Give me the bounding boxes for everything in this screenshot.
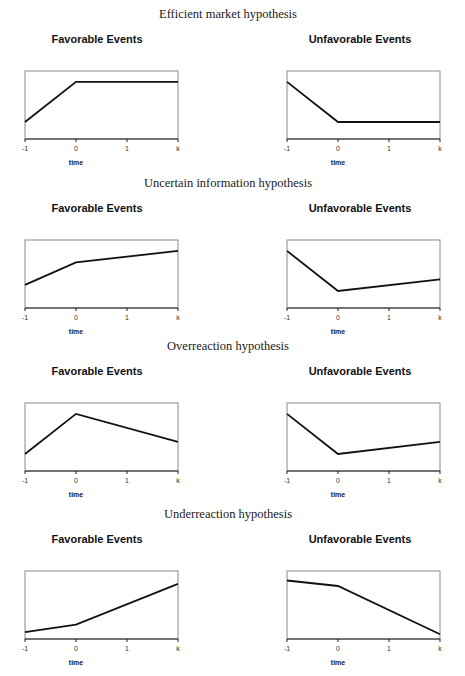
x-tick-label: 0: [336, 645, 340, 652]
x-tick-label: 1: [125, 645, 129, 652]
x-tick-label: -1: [22, 477, 28, 484]
hypothesis-section: Underreaction hypothesisFavorable Events…: [22, 507, 442, 666]
x-tick-label: k: [176, 645, 180, 652]
panel-title: Favorable Events: [51, 33, 142, 45]
section-title: Underreaction hypothesis: [164, 507, 292, 521]
x-tick-label: k: [438, 145, 442, 152]
x-tick-label: -1: [284, 314, 290, 321]
panel-title: Favorable Events: [51, 365, 142, 377]
panel-title: Unfavorable Events: [309, 33, 412, 45]
plot-frame: [287, 403, 440, 471]
x-tick-label: 1: [387, 145, 391, 152]
x-tick-label: 1: [387, 477, 391, 484]
x-tick-label: -1: [284, 477, 290, 484]
unfavorable-events-panel: Unfavorable Events-101ktime: [284, 533, 442, 666]
hypothesis-section: Overreaction hypothesisFavorable Events-…: [22, 339, 442, 498]
x-tick-label: 1: [125, 145, 129, 152]
hypothesis-section: Uncertain information hypothesisFavorabl…: [22, 176, 442, 335]
section-title: Overreaction hypothesis: [167, 339, 289, 353]
section-title: Efficient market hypothesis: [159, 7, 297, 21]
x-axis-label: time: [331, 491, 346, 498]
x-axis-label: time: [331, 659, 346, 666]
x-axis-label: time: [69, 659, 84, 666]
x-tick-label: 0: [336, 314, 340, 321]
x-tick-label: -1: [22, 645, 28, 652]
x-tick-label: k: [438, 477, 442, 484]
x-tick-label: -1: [284, 645, 290, 652]
x-tick-label: k: [176, 314, 180, 321]
x-tick-label: k: [438, 645, 442, 652]
x-tick-label: 0: [74, 314, 78, 321]
x-tick-label: 0: [74, 477, 78, 484]
x-tick-label: -1: [284, 145, 290, 152]
x-axis-label: time: [69, 159, 84, 166]
x-tick-label: k: [176, 477, 180, 484]
plot-frame: [287, 571, 440, 639]
unfavorable-events-panel: Unfavorable Events-101ktime: [284, 33, 442, 166]
x-axis-label: time: [331, 159, 346, 166]
x-tick-label: 1: [387, 645, 391, 652]
panel-title: Unfavorable Events: [309, 202, 412, 214]
hypothesis-section: Efficient market hypothesisFavorable Eve…: [22, 7, 442, 166]
x-axis-label: time: [331, 328, 346, 335]
x-tick-label: 1: [387, 314, 391, 321]
x-axis-label: time: [69, 491, 84, 498]
x-tick-label: 0: [74, 645, 78, 652]
plot-frame: [287, 240, 440, 308]
favorable-events-panel: Favorable Events-101ktime: [22, 533, 180, 666]
x-tick-label: 0: [336, 145, 340, 152]
hypotheses-figure: Efficient market hypothesisFavorable Eve…: [0, 0, 465, 676]
panel-title: Favorable Events: [51, 533, 142, 545]
x-tick-label: 0: [74, 145, 78, 152]
favorable-events-panel: Favorable Events-101ktime: [22, 365, 180, 498]
x-tick-label: 1: [125, 477, 129, 484]
favorable-events-panel: Favorable Events-101ktime: [22, 202, 180, 335]
x-tick-label: 0: [336, 477, 340, 484]
panel-title: Unfavorable Events: [309, 365, 412, 377]
panel-title: Favorable Events: [51, 202, 142, 214]
x-tick-label: -1: [22, 314, 28, 321]
favorable-events-panel: Favorable Events-101ktime: [22, 33, 180, 166]
unfavorable-events-panel: Unfavorable Events-101ktime: [284, 202, 442, 335]
plot-frame: [287, 71, 440, 139]
x-axis-label: time: [69, 328, 84, 335]
x-tick-label: k: [438, 314, 442, 321]
unfavorable-events-panel: Unfavorable Events-101ktime: [284, 365, 442, 498]
x-tick-label: k: [176, 145, 180, 152]
x-tick-label: -1: [22, 145, 28, 152]
x-tick-label: 1: [125, 314, 129, 321]
section-title: Uncertain information hypothesis: [144, 176, 312, 190]
panel-title: Unfavorable Events: [309, 533, 412, 545]
